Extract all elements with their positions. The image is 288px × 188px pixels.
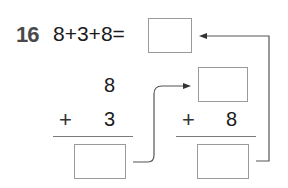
arrowhead-icon: [199, 33, 207, 39]
right-to-top-arrow-icon: [205, 36, 269, 161]
connector-arrows: [0, 0, 288, 188]
left-to-right-arrow-icon: [133, 86, 184, 162]
arrowhead-icon: [183, 83, 191, 89]
